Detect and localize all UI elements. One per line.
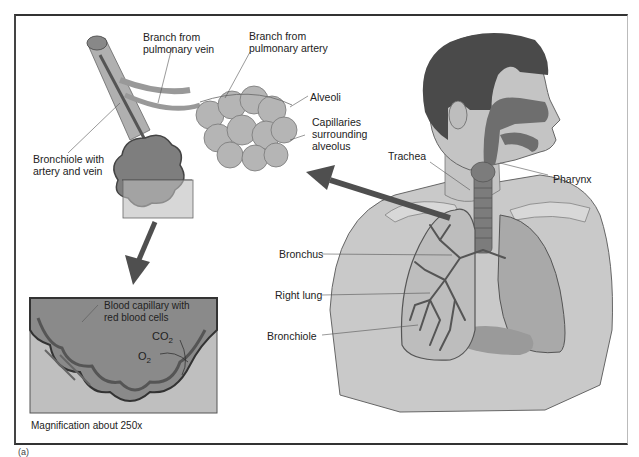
o2-text: O (138, 350, 147, 362)
label-bronchiole: Bronchiole (267, 330, 317, 342)
label-branch-pulmonary-vein: Branch from pulmonary vein (143, 31, 214, 55)
o2-subscript: 2 (147, 356, 151, 365)
label-right-lung: Right lung (275, 289, 322, 301)
co2-subscript: 2 (169, 336, 173, 345)
alveoli-cluster (87, 36, 297, 218)
zoom-arrow-lower (125, 222, 155, 285)
label-trachea: Trachea (388, 150, 426, 162)
human-figure (330, 33, 613, 412)
label-bronchiole-artery-vein: Bronchiole with artery and vein (33, 153, 104, 177)
label-pharynx: Pharynx (553, 173, 592, 185)
co2-text: CO (152, 330, 169, 342)
label-magnification: Magnification about 250x (31, 420, 142, 432)
label-bronchus: Bronchus (279, 248, 323, 260)
label-co2: CO2 (152, 330, 173, 347)
label-capillaries-surrounding-alveolus: Capillaries surrounding alveolus (312, 116, 367, 152)
label-alveoli: Alveoli (310, 91, 341, 103)
label-branch-pulmonary-artery: Branch from pulmonary artery (249, 30, 328, 54)
figure-label: (a) (18, 447, 29, 457)
label-blood-capillary: Blood capillary with red blood cells (104, 300, 190, 324)
label-o2: O2 (138, 350, 151, 367)
